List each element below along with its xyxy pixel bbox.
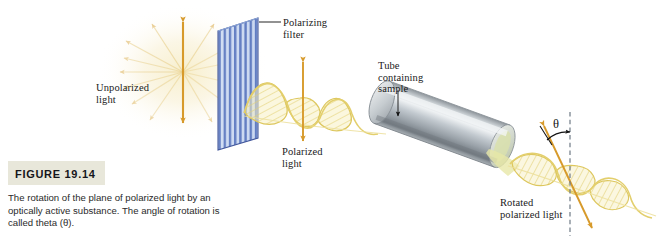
label-polarizing-filter: Polarizing filter xyxy=(283,17,327,40)
figure-caption-text: The rotation of the plane of polarized l… xyxy=(8,192,220,230)
figure-number-text: FIGURE 19.14 xyxy=(15,168,96,180)
theta-angle-symbol: θ xyxy=(553,117,559,132)
polarized-wave xyxy=(244,83,386,134)
label-tube-containing-sample: Tube containing sample xyxy=(378,60,423,95)
label-polarized-light: Polarized light xyxy=(282,146,323,169)
figure-caption-block: FIGURE 19.14 The rotation of the plane o… xyxy=(8,161,223,230)
label-unpolarized-light: Unpolarized light xyxy=(96,82,149,105)
label-rotated-polarized-light: Rotated polarized light xyxy=(500,197,562,220)
figure-container: Unpolarized light Polarizing filter Tube… xyxy=(0,0,659,238)
polarizing-filter xyxy=(218,18,258,150)
figure-number-box: FIGURE 19.14 xyxy=(8,161,105,185)
